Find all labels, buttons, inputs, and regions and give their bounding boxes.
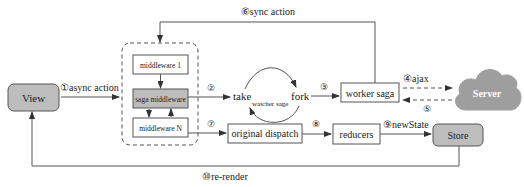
worker-saga-node: worker saga — [341, 83, 399, 102]
watcher-label: watcher sage — [252, 100, 288, 108]
fork-label: fork — [291, 90, 310, 102]
middleware-n-label: middleware N — [139, 124, 182, 133]
store-label: Store — [447, 130, 469, 141]
server-label: Server — [473, 88, 502, 99]
edge-label-6: ⑥sync action — [241, 6, 295, 17]
edge-label-3: ③ — [320, 82, 328, 92]
view-node: View — [8, 84, 59, 111]
edge-2: ② — [188, 83, 230, 97]
edge-sync-action: ⑥sync action — [160, 6, 375, 83]
saga-middleware-label: saga middleware — [135, 95, 186, 104]
view-label: View — [22, 92, 45, 104]
reducers-label: reducers — [340, 129, 374, 140]
edge-new-state: ⑨newState — [380, 119, 431, 134]
original-dispatch-label: original dispatch — [232, 128, 299, 139]
original-dispatch-node: original dispatch — [228, 124, 302, 143]
edge-label-9: ⑨newState — [383, 119, 429, 130]
edge-label-8: ⑧ — [312, 119, 320, 129]
edge-7: ⑦ — [188, 119, 226, 133]
store-node: Store — [433, 124, 483, 146]
take-label: take — [233, 90, 251, 102]
edge-async-action: ①async action — [60, 82, 119, 97]
edge-ajax: ④ajax ⑤ — [403, 73, 452, 114]
edge-label-10: ⑩re-render — [202, 171, 248, 182]
edge-8: ⑧ — [302, 119, 331, 134]
reducers-node: reducers — [333, 124, 380, 144]
middleware-container: middleware 1 saga middleware middleware … — [122, 43, 198, 145]
edge-label-2: ② — [207, 83, 215, 93]
watcher-saga-loop: take fork watcher sage — [233, 68, 310, 123]
worker-saga-label: worker saga — [346, 88, 395, 99]
server-cloud: Server — [455, 70, 520, 110]
edge-label-4: ④ajax — [403, 73, 429, 84]
edge-label-1: ①async action — [60, 82, 119, 93]
edge-label-5: ⑤ — [423, 104, 431, 114]
edge-3: ③ — [311, 82, 339, 96]
diagram-canvas: View ①async action middleware 1 saga mid… — [0, 0, 524, 187]
middleware-1-label: middleware 1 — [140, 61, 181, 70]
edge-label-7: ⑦ — [207, 119, 215, 129]
